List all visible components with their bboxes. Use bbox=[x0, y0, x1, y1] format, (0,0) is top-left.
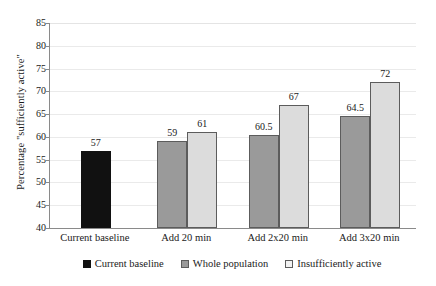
legend-swatch-icon bbox=[285, 260, 293, 268]
bar-column: 60.5 bbox=[249, 23, 279, 228]
x-axis-tick-labels: Current baselineAdd 20 minAdd 2x20 minAd… bbox=[49, 231, 415, 244]
legend-swatch-icon bbox=[181, 260, 189, 268]
bar-group: 60.567 bbox=[233, 23, 325, 228]
bar-value-label: 67 bbox=[289, 92, 299, 102]
y-axis-tick-label: 65 bbox=[22, 109, 46, 119]
bar-group-bars: 60.567 bbox=[233, 23, 325, 228]
bar-group-bars: 64.572 bbox=[325, 23, 417, 228]
y-axis-tick-labels: 85807570656055504540 bbox=[22, 23, 46, 228]
bar-chart-figure: Percentage "sufficiently active" 8580757… bbox=[0, 0, 436, 286]
x-axis-tick-label: Current baseline bbox=[49, 231, 141, 244]
chart-legend: Current baselineWhole populationInsuffic… bbox=[49, 258, 415, 270]
legend-label: Whole population bbox=[193, 258, 269, 270]
bar[interactable] bbox=[340, 116, 370, 228]
x-axis-tick-label: Add 20 min bbox=[141, 231, 233, 244]
bar-column: 64.5 bbox=[340, 23, 370, 228]
bar[interactable] bbox=[279, 105, 309, 228]
legend-item[interactable]: Current baseline bbox=[83, 258, 164, 270]
bar[interactable] bbox=[249, 135, 279, 228]
bar-value-label: 61 bbox=[197, 119, 207, 129]
bar[interactable] bbox=[157, 141, 187, 228]
legend-label: Insufficiently active bbox=[297, 258, 381, 270]
y-axis-tick-label: 60 bbox=[22, 132, 46, 142]
y-axis-tick-label: 75 bbox=[22, 64, 46, 74]
bar-group-bars: 5961 bbox=[142, 23, 234, 228]
bar-column: 57 bbox=[81, 23, 111, 228]
bar-groups: 57596160.56764.572 bbox=[50, 23, 416, 228]
bar-value-label: 64.5 bbox=[347, 103, 365, 113]
legend-item[interactable]: Insufficiently active bbox=[285, 258, 381, 270]
bar-group: 5961 bbox=[142, 23, 234, 228]
legend-item[interactable]: Whole population bbox=[181, 258, 269, 270]
y-axis-tick-label: 40 bbox=[22, 223, 46, 233]
bar-column: 59 bbox=[157, 23, 187, 228]
legend-swatch-icon bbox=[83, 260, 91, 268]
y-axis-tick-mark bbox=[46, 228, 50, 229]
y-axis-tick-label: 50 bbox=[22, 177, 46, 187]
x-axis-tick-label: Add 3x20 min bbox=[324, 231, 416, 244]
bar-column: 67 bbox=[279, 23, 309, 228]
legend-label: Current baseline bbox=[95, 258, 164, 270]
bar-group: 57 bbox=[50, 23, 142, 228]
bar-column: 72 bbox=[370, 23, 400, 228]
plot-area: 57596160.56764.572 bbox=[49, 23, 416, 229]
y-axis-tick-label: 45 bbox=[22, 200, 46, 210]
bar-group-bars: 57 bbox=[50, 23, 142, 228]
bar-group: 64.572 bbox=[325, 23, 417, 228]
y-axis-tick-label: 55 bbox=[22, 155, 46, 165]
y-axis-tick-label: 70 bbox=[22, 86, 46, 96]
bar-column: 61 bbox=[187, 23, 217, 228]
bar[interactable] bbox=[187, 132, 217, 228]
bar-value-label: 72 bbox=[380, 69, 390, 79]
bar-value-label: 59 bbox=[167, 128, 177, 138]
bar-value-label: 57 bbox=[91, 138, 101, 148]
y-axis-tick-label: 80 bbox=[22, 41, 46, 51]
x-axis-tick-label: Add 2x20 min bbox=[232, 231, 324, 244]
y-axis-tick-label: 85 bbox=[22, 18, 46, 28]
bar-value-label: 60.5 bbox=[255, 122, 273, 132]
bar[interactable] bbox=[370, 82, 400, 228]
bar[interactable] bbox=[81, 151, 111, 228]
